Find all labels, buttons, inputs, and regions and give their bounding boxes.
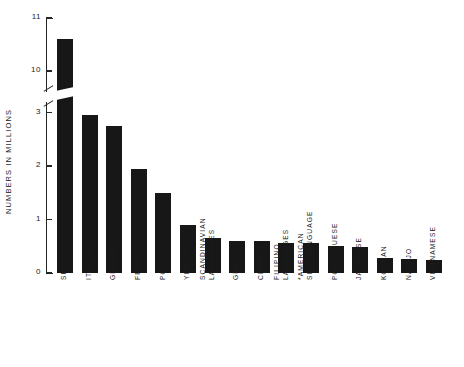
x-axis-label-line: FRENCH <box>134 246 141 280</box>
y-axis-title: NUMBERS IN MILLIONS <box>0 96 16 226</box>
y-tick-1: 1 <box>46 219 52 220</box>
x-axis-label-line: LANGUAGES <box>207 217 216 280</box>
y-tick-2: 2 <box>46 165 52 166</box>
y-tick-11: 11 <box>46 17 52 18</box>
axis-break-mark-upper <box>43 85 53 92</box>
x-axis-label-line: POLISH <box>158 249 165 280</box>
x-axis-label: NAVAJO <box>404 248 413 280</box>
x-axis-label: *AMERICANSIGN LANGUAGE <box>297 210 314 280</box>
x-axis-label: JAPANESE <box>355 237 364 280</box>
bar-chart-figure: NUMBERS IN MILLIONS 01231011 SPANISHITAL… <box>0 0 464 367</box>
x-axis-label-line: JAPANESE <box>355 237 362 280</box>
y-tick-label: 10 <box>31 65 41 74</box>
x-axis-label-line: SCANDINAVIAN <box>199 217 206 280</box>
y-tick-10: 10 <box>46 70 52 71</box>
y-tick-label: 3 <box>36 107 41 116</box>
y-tick-label: 0 <box>36 267 41 276</box>
x-axis-label-line: PORTUGUESE <box>330 222 337 280</box>
x-axis-label-line: ITALIAN <box>84 248 91 280</box>
x-axis-label: YIDDISH <box>183 245 192 280</box>
plot-area: 01231011 <box>46 18 458 274</box>
y-tick-label: 11 <box>32 12 41 21</box>
x-axis-label-line: NAVAJO <box>404 248 411 280</box>
y-tick-label: 1 <box>36 214 41 223</box>
x-axis-label: KOREAN <box>380 245 389 280</box>
x-axis-label: GREEK <box>232 251 241 280</box>
x-axis-label: FRENCH <box>134 246 143 280</box>
x-axis-label-line: CHINESE <box>257 243 264 280</box>
y-tick-label: 2 <box>36 160 41 169</box>
x-axis-label-line: KOREAN <box>380 245 387 280</box>
y-axis-spine-upper <box>46 18 47 92</box>
x-axis-label-line: LANGUAGES <box>281 229 290 280</box>
x-axis-label: SCANDINAVIANLANGUAGES <box>199 217 216 280</box>
y-tick-0: 0 <box>46 272 52 273</box>
x-axis-label-line: SIGN LANGUAGE <box>306 210 315 280</box>
x-axis-label: VIETNAMESE <box>429 226 438 280</box>
x-axis-label-line: YIDDISH <box>183 245 190 280</box>
x-axis-label: POLISH <box>158 249 167 280</box>
x-axis-label: GERMAN <box>109 244 118 280</box>
x-axis-label-line: SPANISH <box>60 243 67 280</box>
x-axis-label: CHINESE <box>257 243 266 280</box>
x-axis-label: PORTUGUESE <box>330 222 339 280</box>
x-axis-label: FILIPINOLANGUAGES <box>273 229 290 280</box>
x-axis-label-line: *AMERICAN <box>297 232 304 280</box>
bar <box>57 39 73 272</box>
y-tick-3: 3 <box>46 112 52 113</box>
axis-break-mark-lower <box>43 100 53 107</box>
x-axis-label-line: GERMAN <box>109 244 116 280</box>
x-axis-label-line: VIETNAMESE <box>429 226 436 280</box>
x-axis-label-line: FILIPINO <box>273 243 280 280</box>
x-axis-label-line: GREEK <box>232 251 239 280</box>
x-axis-label: SPANISH <box>60 243 69 280</box>
y-axis-spine-lower <box>46 102 47 274</box>
x-axis-label: ITALIAN <box>84 248 93 280</box>
